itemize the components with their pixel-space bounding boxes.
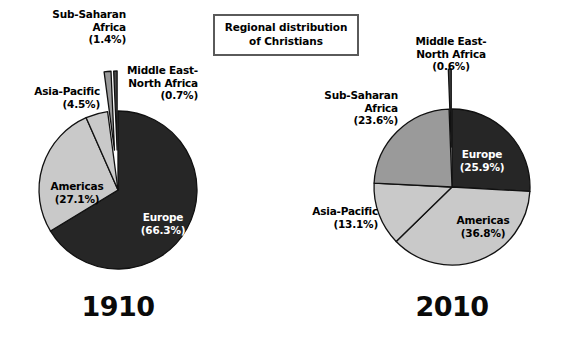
label-2010-sub-saharan-africa: Sub-Saharan Africa (23.6%) [294,89,398,127]
label-1910-sub-saharan-africa: Sub-Saharan Africa (1.4%) [8,8,126,46]
label-2010-middle-east-north-africa: Middle East- North Africa (0.6%) [392,35,510,73]
label-2010-europe-name: Europe [441,148,523,161]
label-1910-sub-saharan-africa-pct: (1.4%) [8,33,126,46]
label-1910-mena-line2: North Africa [112,77,198,90]
chart-canvas: Regional distribution of Christians Sub-… [0,0,561,338]
label-2010-europe: Europe (25.9%) [441,148,523,173]
label-2010-sub-saharan-africa-pct: (23.6%) [294,114,398,127]
label-2010-asia-pacific-name: Asia-Pacific [300,205,378,218]
label-2010-americas-pct: (36.8%) [440,227,526,240]
label-1910-americas: Americas (27.1%) [35,180,119,205]
chart-title-box: Regional distribution of Christians [213,14,359,56]
label-1910-asia-pacific-pct: (4.5%) [6,98,100,111]
label-2010-mena-pct: (0.6%) [392,60,510,73]
label-1910-americas-name: Americas [35,180,119,193]
label-2010-europe-pct: (25.9%) [441,161,523,174]
label-1910-sub-saharan-africa-line1: Sub-Saharan [8,8,126,21]
label-1910-europe-pct: (66.3%) [124,224,202,237]
label-1910-europe-name: Europe [124,211,202,224]
label-2010-americas-name: Americas [440,214,526,227]
chart-title-line-2: of Christians [221,35,351,49]
label-1910-mena-line1: Middle East- [112,64,198,77]
label-2010-sub-saharan-africa-line1: Sub-Saharan [294,89,398,102]
label-2010-asia-pacific-pct: (13.1%) [300,218,378,231]
label-1910-middle-east-north-africa: Middle East- North Africa (0.7%) [112,64,198,102]
label-1910-europe: Europe (66.3%) [124,211,202,236]
chart-title-line-1: Regional distribution [221,21,351,35]
label-2010-americas: Americas (36.8%) [440,214,526,239]
label-2010-asia-pacific: Asia-Pacific (13.1%) [300,205,378,230]
label-1910-sub-saharan-africa-line2: Africa [8,21,126,34]
label-2010-mena-line2: North Africa [392,48,510,61]
year-caption-2010: 2010 [396,292,508,322]
label-1910-asia-pacific-name: Asia-Pacific [6,85,100,98]
label-2010-sub-saharan-africa-line2: Africa [294,102,398,115]
label-1910-asia-pacific: Asia-Pacific (4.5%) [6,85,100,110]
label-1910-americas-pct: (27.1%) [35,193,119,206]
year-caption-1910: 1910 [62,292,174,322]
label-1910-mena-pct: (0.7%) [112,89,198,102]
label-2010-mena-line1: Middle East- [392,35,510,48]
